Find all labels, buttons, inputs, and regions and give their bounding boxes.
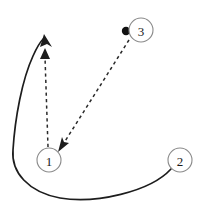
node-3[interactable]: 3 — [129, 18, 153, 42]
solid-curve-from-node-2-edge — [13, 38, 171, 200]
diagram-svg: 1 2 3 — [0, 0, 205, 212]
diagonal-dashed-arrowhead-icon — [58, 137, 69, 152]
vertical-dashed-arrowhead-icon — [40, 48, 50, 59]
node-2-label: 2 — [177, 154, 184, 169]
dashed-arrow-node-1-up-edge — [45, 57, 48, 147]
node-3-label: 3 — [138, 24, 145, 39]
diagram-canvas: 1 2 3 — [0, 0, 205, 212]
node-1-label: 1 — [46, 154, 53, 169]
node-2[interactable]: 2 — [168, 148, 192, 172]
dashed-arrow-node-3-to-node-1-edge — [62, 40, 129, 146]
node-1[interactable]: 1 — [37, 148, 61, 172]
